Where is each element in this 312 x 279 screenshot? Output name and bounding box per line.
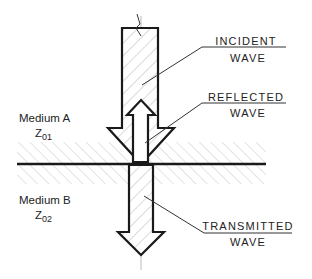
medium-a-impedance: Z01: [35, 127, 52, 142]
reflected-label-2: WAVE: [230, 107, 266, 119]
incident-label-1: INCIDENT: [215, 35, 277, 47]
diagram-canvas: INCIDENT WAVE REFLECTED WAVE TRANSMITTED…: [0, 0, 312, 279]
incident-label-2: WAVE: [230, 52, 266, 64]
reflected-label-1: REFLECTED: [208, 91, 284, 103]
medium-b-name: Medium B: [19, 194, 71, 206]
wave-reflection-diagram: INCIDENT WAVE REFLECTED WAVE TRANSMITTED…: [0, 0, 312, 279]
medium-b-impedance: Z02: [35, 209, 52, 224]
transmitted-label-2: WAVE: [230, 236, 266, 248]
transmitted-label-1: TRANSMITTED: [202, 220, 293, 232]
medium-a-name: Medium A: [19, 112, 70, 124]
